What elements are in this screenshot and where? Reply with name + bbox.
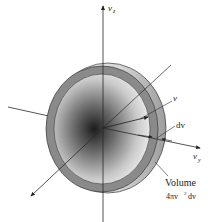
thickness-label: dv bbox=[176, 120, 186, 130]
radius-label: v bbox=[173, 93, 177, 103]
svg-text:y: y bbox=[197, 157, 201, 163]
volume-title: Volume bbox=[165, 177, 196, 188]
svg-text:v: v bbox=[108, 3, 112, 13]
volume-leader bbox=[155, 162, 168, 176]
svg-text:4πv: 4πv bbox=[166, 192, 178, 201]
vy-axis-label: v y bbox=[193, 151, 201, 163]
volume-expression: 4πv 2 dv bbox=[166, 191, 196, 201]
svg-text:v: v bbox=[193, 151, 197, 161]
vz-axis-label: v z bbox=[108, 3, 116, 14]
svg-text:dv: dv bbox=[188, 192, 196, 201]
velocity-shell-diagram: v z v y v dv Volume 4πv 2 dv bbox=[0, 0, 208, 222]
svg-text:z: z bbox=[112, 8, 116, 14]
svg-text:2: 2 bbox=[184, 191, 187, 196]
